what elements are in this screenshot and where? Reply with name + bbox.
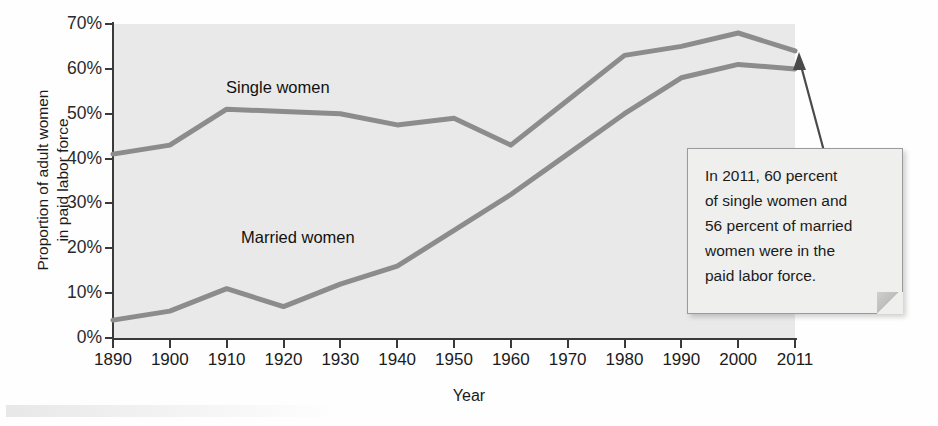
line-single-women <box>113 33 795 154</box>
series-label-married-women: Married women <box>241 228 355 247</box>
x-axis-title: Year <box>0 387 938 405</box>
series-label-single-women: Single women <box>226 78 330 97</box>
chart-figure: Proportion of adult women in paid labor … <box>0 0 938 426</box>
page-edge-smudge <box>6 405 336 417</box>
annotation-line-5: paid labor force. <box>705 263 888 288</box>
annotation-line-3: 56 percent of married <box>705 213 888 238</box>
annotation-line-2: of single women and <box>705 188 888 213</box>
annotation-line-4: women were in the <box>705 238 888 263</box>
annotation-line-1: In 2011, 60 percent <box>705 163 888 188</box>
callout-fold-corner <box>877 292 903 314</box>
annotation-callout: In 2011, 60 percent of single women and … <box>687 148 903 314</box>
